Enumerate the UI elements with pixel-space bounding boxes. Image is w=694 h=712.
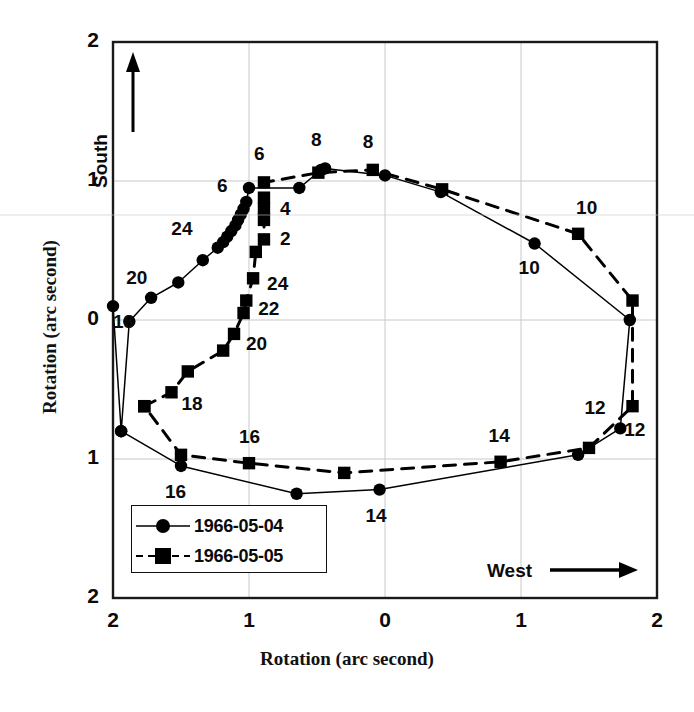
legend-marker-square-icon	[132, 544, 194, 568]
data-point	[528, 237, 540, 249]
point-annotation-15: 6	[254, 143, 265, 165]
point-annotation-16: 8	[363, 131, 374, 153]
direction-arrows	[126, 52, 638, 578]
data-point	[258, 191, 270, 203]
data-point	[626, 294, 638, 306]
data-point	[240, 196, 252, 208]
data-point	[115, 425, 127, 437]
data-point	[373, 483, 385, 495]
point-annotation-2: 24	[171, 218, 192, 240]
x-tick-label-3: 1	[501, 608, 541, 632]
x-tick-label-1: 1	[229, 608, 269, 632]
point-annotation-6: 12	[624, 419, 645, 441]
y-tick-label-2: 0	[65, 306, 99, 330]
data-point	[165, 386, 177, 398]
data-point	[572, 228, 584, 240]
y-tick-label-3: 1	[65, 445, 99, 469]
data-point	[624, 314, 636, 326]
data-point	[583, 442, 595, 454]
y-tick-label-0: 2	[65, 28, 99, 52]
point-annotation-12: 24	[267, 273, 288, 295]
data-point	[197, 254, 209, 266]
x-axis-title: Rotation (arc second)	[0, 648, 694, 670]
series-1	[138, 164, 639, 479]
point-annotation-19: 14	[489, 425, 510, 447]
legend-item-0[interactable]: 1966-05-04	[132, 512, 328, 540]
up-arrow-icon	[126, 52, 140, 72]
west-direction-label: West	[487, 560, 532, 582]
data-point	[175, 460, 187, 472]
x-tick-label-2: 0	[365, 608, 405, 632]
point-annotation-9: 18	[181, 393, 202, 415]
y-tick-label-4: 2	[65, 584, 99, 608]
legend-label-1: 1966-05-05	[194, 546, 283, 567]
right-arrow-icon	[619, 562, 638, 578]
point-annotation-7: 14	[366, 505, 387, 527]
south-direction-label: South	[90, 116, 112, 206]
point-annotation-5: 10	[519, 257, 540, 279]
data-point	[367, 164, 379, 176]
data-point	[338, 467, 350, 479]
legend-marker-circle-icon	[132, 514, 194, 538]
plot-canvas	[0, 0, 694, 712]
point-annotation-20: 16	[239, 426, 260, 448]
x-tick-label-4: 2	[637, 608, 677, 632]
data-point	[145, 292, 157, 304]
data-point	[436, 183, 448, 195]
data-point	[182, 365, 194, 377]
point-annotation-0: 18	[113, 311, 134, 333]
data-point	[247, 272, 259, 284]
data-point	[240, 294, 252, 306]
point-annotation-13: 2	[280, 228, 291, 250]
y-axis-title: Rotation (arc second)	[39, 157, 61, 497]
point-annotation-17: 10	[576, 197, 597, 219]
data-point	[258, 233, 270, 245]
data-point	[175, 449, 187, 461]
legend: 1966-05-04 1966-05-05	[131, 505, 327, 573]
point-annotation-1: 20	[126, 267, 147, 289]
data-point	[228, 328, 240, 340]
data-point	[237, 307, 249, 319]
data-point	[250, 246, 262, 258]
data-point	[290, 488, 302, 500]
data-point	[626, 400, 638, 412]
legend-item-1[interactable]: 1966-05-05	[132, 542, 328, 570]
x-tick-label-0: 2	[93, 608, 133, 632]
data-point	[293, 182, 305, 194]
point-annotation-10: 20	[246, 333, 267, 355]
point-annotation-11: 22	[258, 298, 279, 320]
point-annotation-3: 6	[217, 175, 228, 197]
legend-label-0: 1966-05-04	[194, 516, 283, 537]
rotation-scatter-chart: Rotation (arc second) Rotation (arc seco…	[0, 0, 694, 712]
data-point	[258, 176, 270, 188]
point-annotation-14: 4	[280, 198, 291, 220]
data-point	[138, 400, 150, 412]
data-point	[312, 166, 324, 178]
data-point	[217, 344, 229, 356]
data-point	[172, 276, 184, 288]
point-annotation-4: 8	[311, 129, 322, 151]
data-point	[243, 457, 255, 469]
point-annotation-8: 16	[165, 481, 186, 503]
point-annotation-18: 12	[585, 397, 606, 419]
data-point	[243, 182, 255, 194]
data-point	[494, 456, 506, 468]
y-tick-label-1: 1	[65, 167, 99, 191]
